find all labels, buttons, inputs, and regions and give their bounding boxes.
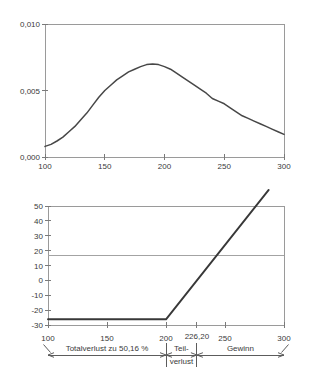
y-tick-label: 0 (39, 276, 44, 285)
x-tick-label: 300 (277, 162, 291, 171)
x-tick-label: 250 (218, 162, 232, 171)
dimension-end-tick (44, 345, 51, 353)
y-tick-label: -30 (31, 321, 43, 330)
y-tick-label: 0,010 (20, 20, 41, 29)
payoff-chart: 100150200226,20250300-30-20-100102030405… (0, 180, 309, 380)
annotation-label: verlust (170, 357, 194, 366)
annotation-label: Teil- (174, 344, 189, 353)
x-tick-label: 300 (277, 334, 291, 343)
y-tick-label: 20 (34, 247, 43, 256)
y-tick-label: -10 (31, 291, 43, 300)
x-tick-label: 200 (158, 162, 172, 171)
y-tick-label: 10 (34, 262, 43, 271)
chart-frame (45, 24, 284, 157)
density-curve (45, 64, 284, 146)
y-tick-label: 0,000 (20, 153, 41, 162)
x-tick-label: 150 (100, 334, 114, 343)
x-tick-label: 250 (218, 334, 232, 343)
annotation-label: Gewinn (227, 344, 254, 353)
x-tick-label: 150 (98, 162, 112, 171)
y-tick-label: -20 (31, 306, 43, 315)
annotation-label: Totalverlust zu 50,16 % (66, 344, 149, 353)
y-tick-label: 50 (34, 202, 43, 211)
y-tick-label: 0,005 (20, 87, 41, 96)
chart-frame (48, 206, 284, 325)
dimension-end-tick (282, 345, 289, 353)
x-tick-label: 200 (159, 334, 173, 343)
y-tick-label: 30 (34, 232, 43, 241)
x-tick-label: 100 (38, 162, 52, 171)
x-tick-label: 226,20 (185, 332, 210, 341)
density-chart: 1001502002503000,0000,0050,010 (0, 0, 309, 180)
figure-canvas: 1001502002503000,0000,0050,010 100150200… (0, 0, 309, 380)
x-tick-label: 100 (41, 334, 55, 343)
y-tick-label: 40 (34, 217, 43, 226)
